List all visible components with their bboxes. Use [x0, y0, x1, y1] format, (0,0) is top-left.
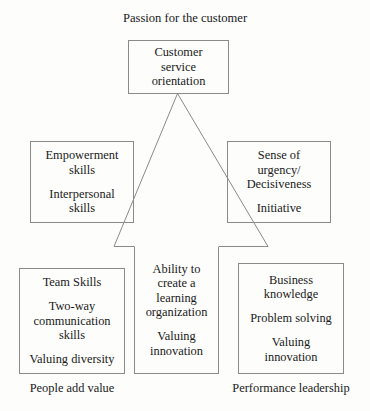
node-mid-left-line-3: skills [49, 201, 114, 216]
node-bottom-right-group-2: Valuing innovation [265, 335, 318, 364]
node-bottom-left-line-1: Two-way [33, 299, 110, 314]
node-mid-right-group-1: Initiative [257, 201, 302, 216]
node-mid-left-group-0: Empowerment skills [46, 148, 119, 177]
node-bottom-left-group-1: Two-way communication skills [33, 299, 110, 343]
node-business-knowledge: Business knowledge Problem solving Valui… [238, 263, 344, 374]
node-center-line-2: learning [146, 291, 208, 306]
node-bottom-right-line-3: Valuing [265, 335, 318, 350]
node-bottom-left-line-4: Valuing diversity [29, 352, 114, 367]
node-mid-right-line-2: Decisiveness [247, 177, 312, 192]
node-empowerment-skills: Empowerment skills Interpersonal skills [30, 141, 134, 223]
node-sense-of-urgency: Sense of urgency/ Decisiveness Initiativ… [227, 141, 331, 223]
node-center-group-0: Ability to create a learning organizatio… [146, 262, 208, 320]
node-top-line-2: orientation [152, 74, 206, 89]
node-bottom-left-line-2: communication [33, 314, 110, 329]
node-bottom-left-line-3: skills [33, 328, 110, 343]
node-bottom-right-line-0: Business [264, 273, 318, 288]
node-center-line-4: Valuing [150, 329, 203, 344]
node-bottom-left-group-2: Valuing diversity [29, 352, 114, 367]
node-center-line-3: organization [146, 305, 208, 320]
competency-arrow-diagram: Passion for the customer Customer servic… [0, 0, 370, 411]
node-customer-service-orientation: Customer service orientation [128, 40, 229, 94]
node-mid-left-line-1: skills [46, 163, 119, 178]
node-bottom-right-line-2: Problem solving [250, 311, 332, 326]
node-bottom-left-line-0: Team Skills [43, 275, 102, 290]
diagram-top-caption: Passion for the customer [0, 11, 370, 25]
node-center-line-5: innovation [150, 344, 203, 359]
node-top-line-1: service [152, 60, 206, 75]
node-mid-right-line-1: urgency/ [247, 163, 312, 178]
node-mid-left-group-1: Interpersonal skills [49, 187, 114, 216]
node-center-line-0: Ability to [146, 262, 208, 277]
node-mid-left-line-0: Empowerment [46, 148, 119, 163]
node-top-line-0: Customer [152, 45, 206, 60]
node-top-group-0: Customer service orientation [152, 45, 206, 89]
node-bottom-right-group-0: Business knowledge [264, 273, 318, 302]
node-bottom-right-line-1: knowledge [264, 287, 318, 302]
node-mid-left-line-2: Interpersonal [49, 187, 114, 202]
node-mid-right-group-0: Sense of urgency/ Decisiveness [247, 148, 312, 192]
node-mid-right-line-0: Sense of [247, 148, 312, 163]
node-center-group-1: Valuing innovation [150, 329, 203, 358]
diagram-bottom-left-caption: People add value [12, 381, 132, 395]
node-bottom-right-line-4: innovation [265, 350, 318, 365]
node-learning-organization: Ability to create a learning organizatio… [134, 247, 219, 374]
node-center-line-1: create a [146, 276, 208, 291]
node-mid-right-line-3: Initiative [257, 201, 302, 216]
node-bottom-left-group-0: Team Skills [43, 275, 102, 290]
diagram-bottom-right-caption: Performance leadership [226, 381, 356, 395]
node-team-skills: Team Skills Two-way communication skills… [19, 268, 125, 374]
node-bottom-right-group-1: Problem solving [250, 311, 332, 326]
